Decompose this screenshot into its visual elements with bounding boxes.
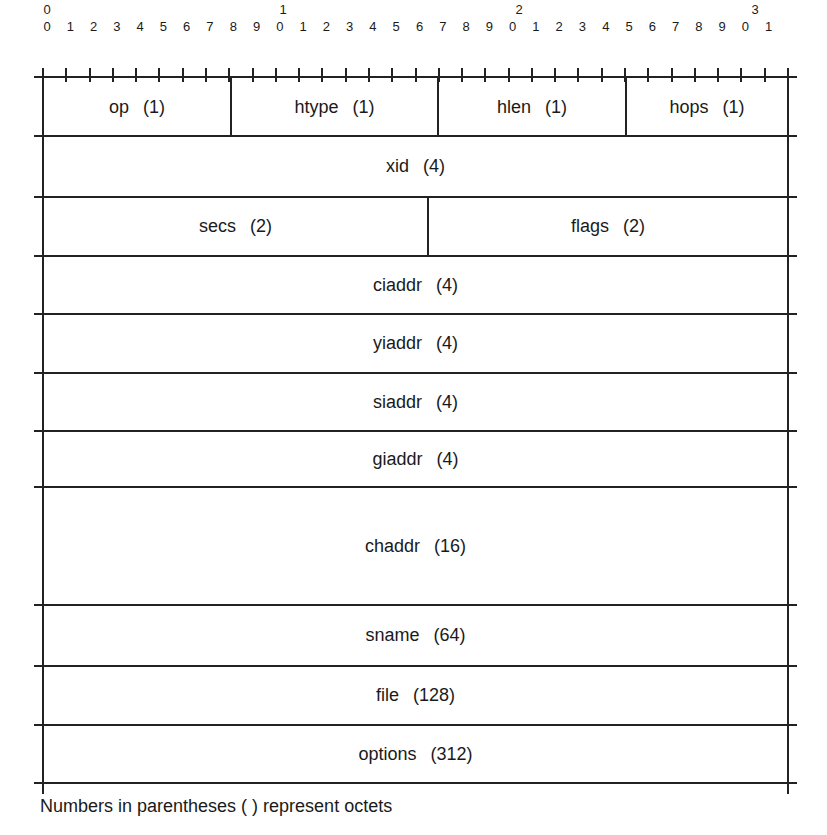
field-options: options(312): [44, 726, 787, 782]
field-size: (128): [413, 685, 455, 706]
field-xid: xid(4): [44, 137, 787, 196]
ruler-bit-label: 4: [369, 19, 376, 34]
ruler-bit-label: 3: [113, 19, 120, 34]
field-size: (1): [545, 97, 567, 118]
field-name: hlen: [497, 97, 531, 118]
field-yiaddr: yiaddr(4): [44, 315, 787, 372]
ruler-bit-label: 2: [556, 19, 563, 34]
ruler-decade-0: 0: [43, 2, 50, 17]
ruler-bit-label: 7: [206, 19, 213, 34]
field-name: xid: [386, 156, 409, 177]
field-secs: secs(2): [44, 198, 427, 255]
field-name: secs: [199, 216, 236, 237]
field-name: op: [109, 97, 129, 118]
ruler-bit-label: 8: [695, 19, 702, 34]
field-size: (2): [623, 216, 645, 237]
ruler-bit-label: 6: [649, 19, 656, 34]
ruler-bit-label: 5: [393, 19, 400, 34]
field-hops: hops(1): [627, 78, 787, 136]
field-name: file: [376, 685, 399, 706]
field-hlen: hlen(1): [439, 78, 625, 136]
field-size: (4): [436, 333, 458, 354]
ruler-bit-label: 9: [486, 19, 493, 34]
field-name: sname: [365, 625, 419, 646]
field-name: chaddr: [365, 536, 420, 557]
field-op: op(1): [44, 78, 230, 136]
field-size: (4): [436, 275, 458, 296]
ruler-bit-label: 2: [90, 19, 97, 34]
ruler-bit-label: 5: [625, 19, 632, 34]
ruler-bit-label: 3: [346, 19, 353, 34]
field-size: (1): [353, 97, 375, 118]
ruler-bit-label: 7: [439, 19, 446, 34]
ruler-bit-label: 4: [137, 19, 144, 34]
right-border: [787, 70, 789, 794]
ruler-bit-label: 7: [672, 19, 679, 34]
ruler-bit-label: 9: [719, 19, 726, 34]
ruler-bit-label: 0: [509, 19, 516, 34]
ruler-bit-label: 1: [765, 19, 772, 34]
field-name: ciaddr: [373, 275, 422, 296]
ruler-bit-label: 6: [416, 19, 423, 34]
ruler-bit-label: 6: [183, 19, 190, 34]
ruler-bit-label: 0: [276, 19, 283, 34]
field-siaddr: siaddr(4): [44, 374, 787, 430]
ruler-bit-label: 1: [67, 19, 74, 34]
field-chaddr: chaddr(16): [44, 488, 787, 604]
footnote: Numbers in parentheses ( ) represent oct…: [40, 796, 392, 817]
field-size: (2): [250, 216, 272, 237]
field-name: htype: [294, 97, 338, 118]
ruler-bit-label: 3: [579, 19, 586, 34]
row-divider: [34, 782, 797, 784]
ruler-decade-3: 3: [751, 2, 758, 17]
field-size: (312): [431, 744, 473, 765]
ruler-bit-label: 8: [462, 19, 469, 34]
field-size: (64): [434, 625, 466, 646]
ruler-bit-label: 0: [43, 19, 50, 34]
field-htype: htype(1): [232, 78, 437, 136]
field-size: (4): [436, 392, 458, 413]
field-size: (4): [423, 156, 445, 177]
field-sname: sname(64): [44, 606, 787, 665]
field-name: giaddr: [372, 449, 422, 470]
field-giaddr: giaddr(4): [44, 432, 787, 486]
ruler-decade-1: 1: [279, 2, 286, 17]
field-ciaddr: ciaddr(4): [44, 257, 787, 313]
ruler-bit-label: 1: [299, 19, 306, 34]
field-name: yiaddr: [373, 333, 422, 354]
field-name: hops: [669, 97, 708, 118]
ruler-bit-label: 4: [602, 19, 609, 34]
field-flags: flags(2): [429, 198, 787, 255]
field-name: options: [358, 744, 416, 765]
ruler-decade-2: 2: [515, 2, 522, 17]
ruler-bit-label: 2: [323, 19, 330, 34]
ruler-bit-label: 9: [253, 19, 260, 34]
field-size: (4): [437, 449, 459, 470]
ruler-bit-label: 0: [742, 19, 749, 34]
field-size: (1): [143, 97, 165, 118]
ruler-bit-label: 5: [160, 19, 167, 34]
field-size: (16): [434, 536, 466, 557]
field-size: (1): [723, 97, 745, 118]
field-file: file(128): [44, 667, 787, 724]
field-name: siaddr: [373, 392, 422, 413]
ruler-bit-label: 8: [230, 19, 237, 34]
ruler-bit-label: 1: [532, 19, 539, 34]
field-name: flags: [571, 216, 609, 237]
